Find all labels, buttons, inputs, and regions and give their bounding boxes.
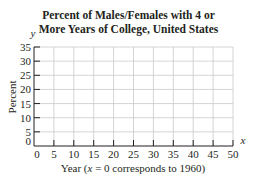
y-tick-label: 5 [26, 126, 32, 138]
y-axis-label: Percent [6, 81, 18, 114]
x-tick-label: 10 [68, 148, 80, 160]
y-tick-label: 35 [20, 41, 32, 53]
x-tick-label: 40 [188, 148, 200, 160]
x-tick-label: 35 [168, 148, 180, 160]
y-tick-label: 15 [20, 98, 32, 110]
x-tick-label: 20 [108, 148, 120, 160]
y-axis-symbol: y [30, 27, 36, 39]
x-tick-label: 30 [148, 148, 160, 160]
y-tick-label: 25 [20, 69, 32, 81]
chart-plot: 05101520253035404550 05101520253035 y x … [0, 0, 257, 183]
x-tick-label: 25 [128, 148, 140, 160]
x-axis-ticks: 05101520253035404550 [34, 140, 239, 160]
y-axis-ticks: 05101520253035 [20, 41, 40, 147]
x-tick-label: 15 [88, 148, 100, 160]
x-tick-label: 45 [208, 148, 220, 160]
x-tick-label: 0 [34, 148, 40, 160]
y-tick-label: 20 [20, 83, 32, 95]
y-tick-label: 30 [20, 55, 32, 67]
y-tick-label: 10 [20, 112, 32, 124]
x-tick-label: 5 [51, 148, 57, 160]
x-axis-label: Year (x = 0 corresponds to 1960) [61, 162, 206, 175]
x-axis-symbol: x [240, 134, 246, 146]
x-tick-label: 50 [228, 148, 240, 160]
grid-lines [34, 47, 233, 146]
